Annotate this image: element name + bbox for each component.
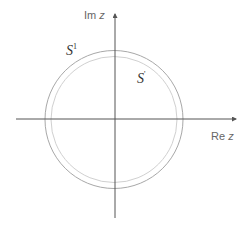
imaginary-axis-label: Im z: [84, 9, 105, 21]
imag-prefix: Im: [84, 9, 96, 21]
inner-circle-label: S': [137, 70, 145, 87]
real-var: z: [228, 130, 234, 142]
complex-plane-diagram: [0, 0, 247, 230]
real-axis-label: Re z: [211, 130, 234, 142]
outer-circle-label: S1: [66, 42, 77, 59]
imag-var: z: [99, 9, 105, 21]
outer-label-sup: 1: [73, 42, 77, 51]
inner-label-base: S: [137, 71, 144, 86]
outer-label-base: S: [66, 43, 73, 58]
inner-label-sup: ': [144, 70, 145, 79]
real-prefix: Re: [211, 130, 225, 142]
